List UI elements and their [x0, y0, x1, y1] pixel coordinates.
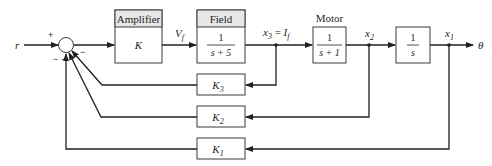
integrator-denominator: s [411, 47, 415, 58]
x2-label: x2 [364, 27, 374, 42]
input-label: r [15, 39, 20, 51]
k2-block: K2 [197, 106, 245, 127]
x3-label: x3 = If [262, 26, 291, 41]
motor-denominator: s + 1 [319, 47, 340, 58]
vf-label: Vf [175, 27, 186, 42]
output-label: θ [478, 39, 484, 51]
wire-x3-to-k3 [246, 45, 276, 85]
amplifier-gain: K [134, 39, 143, 51]
k3-block: K3 [197, 74, 245, 95]
integrator-numerator: 1 [411, 32, 416, 43]
field-denominator: s + 5 [211, 47, 232, 58]
motor-numerator: 1 [327, 32, 332, 43]
plus-sign: + [48, 30, 53, 40]
x1-label: x1 [444, 27, 454, 42]
motor-header: Motor [316, 12, 344, 24]
minus-sign-3: − [80, 47, 85, 57]
wire-x2-to-k2 [246, 45, 369, 117]
amplifier-header: Amplifier [117, 13, 161, 25]
motor-block: Motor 1 s + 1 [313, 12, 346, 63]
field-numerator: 1 [219, 32, 224, 43]
wire-k1-to-sum [66, 54, 197, 149]
amplifier-block: Amplifier K [115, 10, 162, 63]
minus-sign-1: − [53, 54, 58, 64]
field-block: Field 1 s + 5 [197, 10, 245, 63]
k1-block: K1 [197, 138, 245, 159]
field-header: Field [210, 13, 233, 25]
integrator-block: 1 s [396, 27, 430, 63]
block-diagram: r + − − − Amplifier K Vf Field 1 s + 5 x… [0, 0, 492, 166]
